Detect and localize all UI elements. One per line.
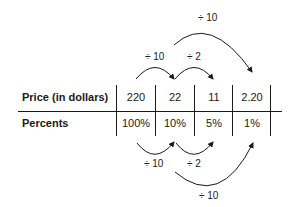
arrow-top-div2 bbox=[175, 68, 213, 80]
arrows-layer bbox=[0, 0, 291, 207]
table-column-divider bbox=[116, 85, 117, 136]
price-cell: 22 bbox=[156, 91, 194, 103]
arrow-top-div10-large bbox=[174, 33, 252, 72]
op-label-top-div2: ÷ 2 bbox=[187, 51, 201, 62]
percent-cell: 1% bbox=[233, 117, 271, 129]
price-cell: 2.20 bbox=[233, 91, 271, 103]
op-label-bottom-div10-small: ÷ 10 bbox=[144, 158, 163, 169]
table-column-divider bbox=[270, 85, 271, 136]
op-label-bottom-div2: ÷ 2 bbox=[187, 158, 201, 169]
arrow-top-div10-small bbox=[136, 68, 174, 80]
percent-cell: 10% bbox=[156, 117, 194, 129]
arrow-bottom-div10-small bbox=[137, 142, 174, 154]
price-cell: 11 bbox=[195, 91, 233, 103]
row-label-price: Price (in dollars) bbox=[22, 91, 108, 103]
percent-cell: 100% bbox=[117, 117, 155, 129]
op-label-top-div10-large: ÷ 10 bbox=[198, 12, 217, 23]
table-column-divider bbox=[194, 85, 195, 136]
op-label-bottom-div10-large: ÷ 10 bbox=[199, 190, 218, 201]
arrow-bottom-div2 bbox=[176, 142, 213, 154]
row-label-percents: Percents bbox=[22, 117, 68, 129]
table-column-divider bbox=[232, 85, 233, 136]
price-cell: 220 bbox=[117, 91, 155, 103]
table-column-divider bbox=[155, 85, 156, 136]
percent-cell: 5% bbox=[195, 117, 233, 129]
op-label-top-div10-small: ÷ 10 bbox=[145, 51, 164, 62]
table-row-divider bbox=[18, 111, 282, 112]
